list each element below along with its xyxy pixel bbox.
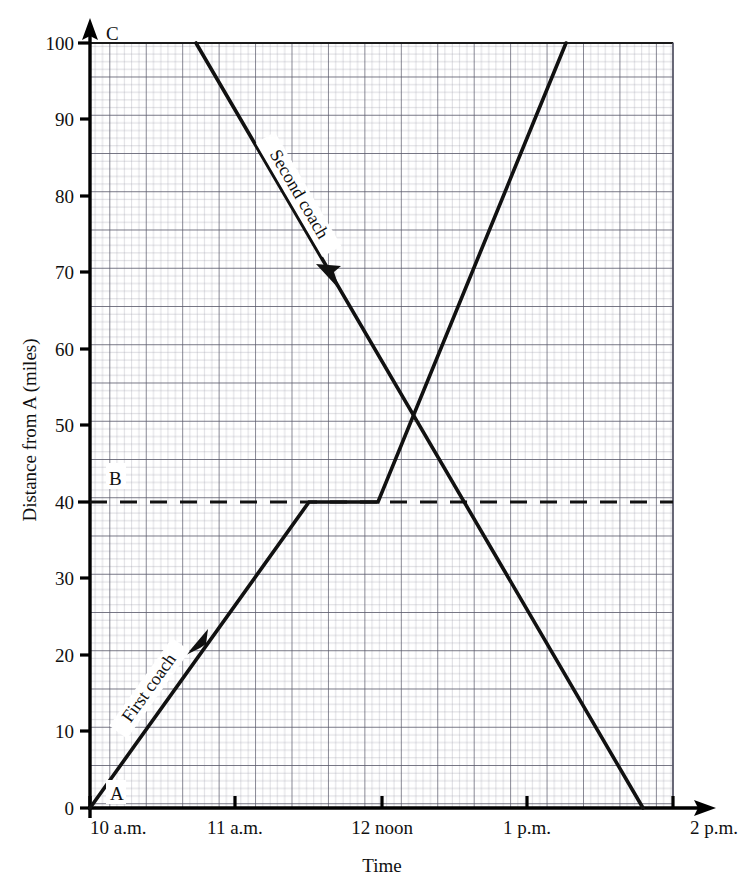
y-tick-label-30: 30 <box>55 568 74 589</box>
y-axis-title: Distance from A (miles) <box>19 338 41 521</box>
y-tick-label-20: 20 <box>55 645 74 666</box>
y-tick-label-100: 100 <box>46 33 75 54</box>
y-tick-label-80: 80 <box>55 186 74 207</box>
y-tick-label-0: 0 <box>65 798 75 819</box>
y-tick-label-70: 70 <box>55 262 74 283</box>
annotation-label-a: A <box>110 783 124 804</box>
annotation-a-group: A <box>106 780 126 804</box>
chart-canvas: 100 90 80 70 60 50 40 30 20 10 0 Distanc… <box>0 0 744 888</box>
y-tick-label-90: 90 <box>55 109 74 130</box>
x-axis-title: Time <box>362 855 401 876</box>
annotation-c-group: C <box>106 23 119 44</box>
y-tick-label-10: 10 <box>55 721 74 742</box>
x-tick-label-11am: 11 a.m. <box>207 817 263 838</box>
plot-grid <box>90 43 673 808</box>
annotation-label-c: C <box>106 23 119 44</box>
y-tick-label-60: 60 <box>55 339 74 360</box>
y-tick-label-40: 40 <box>55 492 74 513</box>
annotation-label-b: B <box>109 468 122 489</box>
x-tick-label-1pm: 1 p.m. <box>503 817 551 838</box>
annotation-b-group: B <box>106 463 126 489</box>
y-tick-label-50: 50 <box>55 415 74 436</box>
distance-time-chart: 100 90 80 70 60 50 40 30 20 10 0 Distanc… <box>0 0 744 888</box>
x-tick-label-10am: 10 a.m. <box>90 817 146 838</box>
x-tick-label-2pm: 2 p.m. <box>690 817 738 838</box>
x-tick-label-12noon: 12 noon <box>351 817 413 838</box>
